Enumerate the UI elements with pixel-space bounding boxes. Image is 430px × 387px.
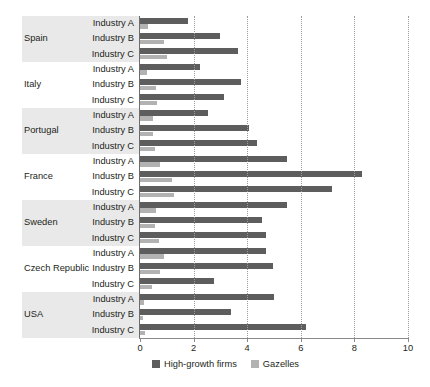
bar-high-growth-firms	[140, 156, 287, 162]
chart-row: Industry BUSA	[0, 307, 430, 322]
bar-chart: Industry AIndustry BSpainIndustry CIndus…	[0, 0, 430, 387]
tick-mark	[408, 338, 409, 342]
chart-row: Industry A	[0, 108, 430, 123]
legend-swatch-icon	[152, 360, 160, 368]
bar-gazelles	[140, 86, 156, 90]
bar-high-growth-firms	[140, 140, 257, 146]
bar-gazelles	[140, 224, 155, 228]
chart-row: Industry BSpain	[0, 31, 430, 46]
gridline	[301, 16, 303, 338]
chart-row: Industry BItaly	[0, 77, 430, 92]
industry-label: Industry C	[22, 47, 134, 62]
chart-row: Industry BCzech Republic	[0, 261, 430, 276]
y-axis-line	[139, 16, 140, 338]
bar-gazelles	[140, 270, 160, 274]
industry-label: Industry C	[22, 323, 134, 338]
industry-label: Industry A	[22, 154, 134, 169]
bar-gazelles	[140, 40, 164, 44]
tick-mark	[194, 338, 195, 342]
industry-label: Industry A	[22, 16, 134, 31]
bar-high-growth-firms	[140, 48, 238, 54]
bar-high-growth-firms	[140, 79, 241, 85]
industry-label: Industry A	[22, 108, 134, 123]
chart-row: Industry C	[0, 93, 430, 108]
x-tick-label: 6	[289, 343, 313, 353]
gridline	[354, 16, 356, 338]
chart-row: Industry C	[0, 185, 430, 200]
bar-gazelles	[140, 147, 155, 151]
chart-row: Industry C	[0, 139, 430, 154]
bar-high-growth-firms	[140, 171, 362, 177]
country-label: France	[24, 169, 110, 184]
bar-gazelles	[140, 331, 145, 335]
chart-row: Industry A	[0, 200, 430, 215]
bar-gazelles	[140, 316, 143, 320]
x-tick-label: 8	[342, 343, 366, 353]
plot-area: Industry AIndustry BSpainIndustry CIndus…	[0, 16, 430, 338]
bar-high-growth-firms	[140, 294, 274, 300]
chart-legend: High-growth firmsGazelles	[152, 357, 308, 371]
bar-high-growth-firms	[140, 110, 208, 116]
tick-mark	[301, 338, 302, 342]
bar-high-growth-firms	[140, 186, 332, 192]
bar-high-growth-firms	[140, 263, 273, 269]
chart-row: Industry C	[0, 323, 430, 338]
x-axis-line	[139, 338, 408, 339]
bar-high-growth-firms	[140, 64, 200, 70]
bar-gazelles	[140, 285, 152, 289]
bar-high-growth-firms	[140, 33, 220, 39]
gridline	[247, 16, 249, 338]
bar-gazelles	[140, 254, 164, 258]
industry-label: Industry A	[22, 246, 134, 261]
x-tick-label: 10	[396, 343, 420, 353]
chart-row: Industry BPortugal	[0, 123, 430, 138]
x-tick-label: 0	[128, 343, 152, 353]
country-label: Czech Republic	[24, 261, 110, 276]
chart-row: Industry A	[0, 62, 430, 77]
x-tick-label: 4	[235, 343, 259, 353]
bar-gazelles	[140, 55, 167, 59]
bar-high-growth-firms	[140, 324, 306, 330]
chart-row: Industry C	[0, 47, 430, 62]
bar-high-growth-firms	[140, 94, 224, 100]
country-label: Spain	[24, 31, 110, 46]
chart-row: Industry C	[0, 231, 430, 246]
chart-row: Industry A	[0, 154, 430, 169]
industry-label: Industry A	[22, 200, 134, 215]
chart-row: Industry A	[0, 246, 430, 261]
bar-high-growth-firms	[140, 278, 214, 284]
bar-gazelles	[140, 208, 156, 212]
bar-gazelles	[140, 70, 147, 74]
legend-item: High-growth firms	[152, 359, 237, 369]
bar-gazelles	[140, 101, 157, 105]
country-label: Sweden	[24, 215, 110, 230]
country-label: Italy	[24, 77, 110, 92]
legend-label: High-growth firms	[164, 359, 237, 369]
bar-gazelles	[140, 193, 174, 197]
gridline	[194, 16, 196, 338]
bar-gazelles	[140, 239, 159, 243]
x-tick-label: 2	[182, 343, 206, 353]
bar-gazelles	[140, 132, 153, 136]
bar-high-growth-firms	[140, 217, 262, 223]
industry-label: Industry C	[22, 93, 134, 108]
bar-gazelles	[140, 162, 160, 166]
industry-label: Industry C	[22, 185, 134, 200]
bar-high-growth-firms	[140, 18, 188, 24]
country-label: Portugal	[24, 123, 110, 138]
chart-row: Industry A	[0, 16, 430, 31]
bar-gazelles	[140, 178, 172, 182]
legend-swatch-icon	[251, 360, 259, 368]
bar-high-growth-firms	[140, 202, 287, 208]
industry-label: Industry C	[22, 231, 134, 246]
chart-row: Industry A	[0, 292, 430, 307]
chart-row: Industry BSweden	[0, 215, 430, 230]
chart-row: Industry C	[0, 277, 430, 292]
tick-mark	[140, 338, 141, 342]
industry-label: Industry C	[22, 139, 134, 154]
gridline	[408, 16, 410, 338]
legend-item: Gazelles	[251, 359, 299, 369]
tick-mark	[247, 338, 248, 342]
tick-mark	[354, 338, 355, 342]
industry-label: Industry A	[22, 292, 134, 307]
